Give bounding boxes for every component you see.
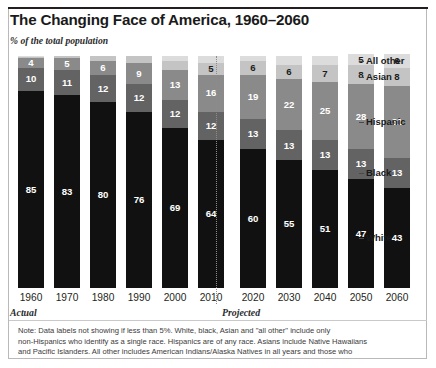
bar-segment-value: 47 <box>356 229 367 239</box>
x-axis-tick-1960: 1960 <box>14 292 48 303</box>
bar-segment-value: 8 <box>394 72 399 82</box>
x-axis-tick-2040: 2040 <box>308 292 342 303</box>
bar-segment: 5 <box>54 58 80 70</box>
bar-segment-value: 5 <box>208 64 213 74</box>
bar-segment-value: 13 <box>248 129 259 139</box>
legend-label-white: White <box>366 232 392 243</box>
bar-segment <box>54 56 80 58</box>
bar-segment <box>162 61 188 70</box>
bar-segment: 55 <box>276 160 302 288</box>
x-axis-tick-2020: 2020 <box>236 292 270 303</box>
bar-segment-value: 83 <box>62 187 73 197</box>
legend-label-asian: Asian <box>366 71 392 82</box>
bar-column: 6412165 <box>198 56 224 288</box>
stacked-bar: 76129 <box>126 56 152 288</box>
stacked-bar: 5113257 <box>312 56 338 288</box>
x-axis-tick-1970: 1970 <box>50 292 84 303</box>
stacked-bar: 691213 <box>162 56 188 288</box>
bar-segment-value: 64 <box>206 209 217 219</box>
bar-segment <box>90 56 116 61</box>
chart-subtitle: % of the total population <box>10 35 108 46</box>
bar-segment: 13 <box>240 119 266 149</box>
bar-segment-value: 5 <box>358 55 363 65</box>
bar-segment-value: 25 <box>320 106 331 116</box>
bar-segment: 11 <box>54 70 80 96</box>
bar-segment <box>18 56 44 57</box>
bar-segment-value: 13 <box>392 168 403 178</box>
bar-segment: 64 <box>198 140 224 288</box>
x-axis-tick-1980: 1980 <box>86 292 120 303</box>
phase-label-projected: Projected <box>222 307 260 318</box>
x-axis-tick-2010: 2010 <box>194 292 228 303</box>
bar-segment: 83 <box>54 95 80 288</box>
bar-segment-value: 51 <box>320 224 331 234</box>
footnote-line-3: and Pacific Islanders. All other include… <box>18 347 418 358</box>
bar-segment <box>126 56 152 63</box>
bar-column: 76129 <box>126 56 152 288</box>
bar-segment: 51 <box>312 170 338 288</box>
bar-segment-value: 6 <box>286 67 291 77</box>
footnote: Note: Data labels not showing if less th… <box>18 326 418 358</box>
legend-tick-white <box>359 238 364 239</box>
bar-segment-value: 11 <box>62 78 72 88</box>
x-axis-tick-2060: 2060 <box>380 292 414 303</box>
bar-column: 85104 <box>18 56 44 288</box>
footnote-line-1: Note: Data labels not showing if less th… <box>18 326 418 337</box>
bar-segment: 12 <box>198 112 224 140</box>
bar-segment: 69 <box>162 128 188 288</box>
bar-segment: 13 <box>162 70 188 100</box>
bar-segment <box>240 56 266 61</box>
bar-segment-value: 22 <box>284 100 295 110</box>
bar-segment: 60 <box>240 149 266 288</box>
phase-label-actual: Actual <box>10 307 37 318</box>
bar-segment: 25 <box>312 82 338 140</box>
bar-segment: 12 <box>162 100 188 128</box>
bar-segment-value: 19 <box>248 92 259 102</box>
stacked-bar: 5513226 <box>276 56 302 288</box>
legend-label-hispanic: Hispanic <box>366 116 406 127</box>
x-axis-tick-2030: 2030 <box>272 292 306 303</box>
bar-segment-value: 28 <box>356 112 367 122</box>
bar-segment: 85 <box>18 91 44 288</box>
bar-segment: 16 <box>198 75 224 112</box>
stacked-bar: 83115 <box>54 56 80 288</box>
legend-tick-all-other <box>359 61 364 62</box>
stacked-bar: 80126 <box>90 56 116 288</box>
page-title: The Changing Face of America, 1960–2060 <box>10 11 309 28</box>
bar-segment-value: 12 <box>98 84 109 94</box>
bar-column: 80126 <box>90 56 116 288</box>
bar-segment-value: 85 <box>26 185 37 195</box>
bar-column: 6013196 <box>240 56 266 288</box>
bar-column: 83115 <box>54 56 80 288</box>
legend-tick-black <box>359 173 364 174</box>
bar-segment <box>198 56 224 63</box>
bar-segment: 7 <box>312 65 338 81</box>
footnote-line-2: non-Hispanics who identify as a single r… <box>18 337 418 348</box>
bar-segment-value: 6 <box>100 63 105 73</box>
bar-segment-value: 4 <box>28 58 33 68</box>
bar-segment-value: 13 <box>170 80 181 90</box>
legend-tick-hispanic <box>359 122 364 123</box>
x-axis-tick-1990: 1990 <box>122 292 156 303</box>
bar-column: 5113257 <box>312 56 338 288</box>
bar-segment: 10 <box>18 68 44 91</box>
bar-segment-value: 7 <box>322 69 327 79</box>
bar-segment-value: 6 <box>250 63 255 73</box>
bar-segment: 12 <box>90 75 116 103</box>
bar-segment-value: 13 <box>356 159 367 169</box>
chart-page: The Changing Face of America, 1960–2060 … <box>0 0 436 368</box>
actual-projected-divider <box>216 56 217 304</box>
bar-segment-value: 12 <box>206 121 217 131</box>
bar-segment-value: 76 <box>134 195 145 205</box>
bar-segment: 19 <box>240 75 266 119</box>
bar-segment-value: 9 <box>136 69 141 79</box>
bar-segment <box>276 56 302 65</box>
bar-segment: 22 <box>276 79 302 130</box>
bar-segment-value: 10 <box>26 74 37 84</box>
bar-segment: 4 <box>18 58 44 67</box>
bar-segment: 13 <box>312 140 338 170</box>
bar-segment: 80 <box>90 102 116 288</box>
stacked-bar: 6013196 <box>240 56 266 288</box>
bar-segment-value: 60 <box>248 214 259 224</box>
bar-segment: 13 <box>276 130 302 160</box>
